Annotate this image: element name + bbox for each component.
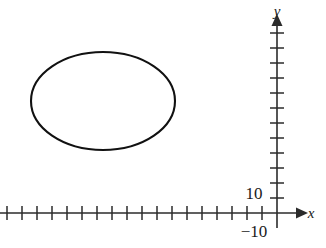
ellipse-graph-figure: x y 10 −10 — [0, 0, 326, 248]
x-axis-label: x — [307, 205, 315, 221]
coordinate-plane-svg: x y 10 −10 — [0, 0, 326, 248]
x-tick-label-minus-10: −10 — [241, 222, 268, 241]
closed-ellipse-curve — [31, 52, 175, 150]
y-axis-label: y — [272, 3, 281, 19]
y-tick-label-10: 10 — [246, 184, 263, 203]
x-axis-arrow-icon — [296, 208, 308, 219]
